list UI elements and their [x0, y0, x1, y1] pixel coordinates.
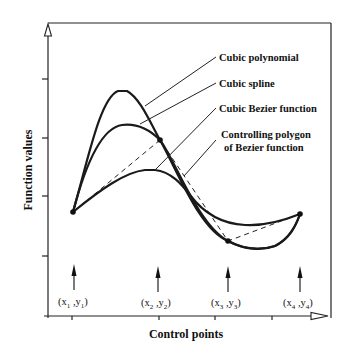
control-point-label-3: (x3 ,y3) [211, 297, 241, 311]
leader-lines [140, 57, 216, 176]
control-point-arrows [72, 264, 303, 292]
cubic-bezier-curve [73, 170, 300, 225]
y-axis-label: Function values [21, 129, 35, 210]
control-point-label-2: (x2 ,y2) [141, 297, 171, 311]
control-point-2 [157, 137, 163, 143]
control-point-label-1: (x1 ,y1) [58, 296, 88, 310]
control-point-4 [297, 211, 303, 217]
up-arrow-icon [298, 266, 303, 292]
control-point-1 [70, 209, 76, 215]
label-cubic-polynomial: Cubic polynomial [219, 52, 299, 63]
label-control-polygon-line2: of Bezier function [224, 142, 304, 153]
up-arrow-icon [226, 266, 231, 292]
label-cubic-bezier: Cubic Bezier function [219, 103, 317, 114]
label-control-polygon-line1: Controlling polygon [221, 129, 311, 140]
y-axis [42, 24, 52, 318]
x-axis-label: Control points [149, 327, 223, 341]
up-arrow-icon [156, 266, 161, 292]
x-axis-arrow-icon [311, 313, 328, 320]
control-point-3 [225, 238, 231, 244]
y-axis-arrow-icon [45, 24, 52, 36]
bezier-comparison-figure: Cubic polynomial Cubic spline Cubic Bezi… [0, 0, 347, 361]
up-arrow-icon [72, 264, 77, 290]
control-point-label-4: (x4 ,y4) [283, 297, 313, 311]
x-axis [44, 313, 328, 321]
label-cubic-spline: Cubic spline [219, 78, 275, 89]
